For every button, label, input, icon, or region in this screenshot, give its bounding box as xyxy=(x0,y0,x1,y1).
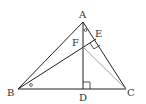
segment-AC xyxy=(83,22,126,89)
right-angle-mark-E xyxy=(90,43,100,49)
label-E: E xyxy=(95,28,102,39)
angle-mark-B xyxy=(30,84,33,87)
triangle-diagram: A E F B D C xyxy=(0,0,146,104)
label-C: C xyxy=(127,87,135,98)
segment-AB xyxy=(18,22,83,89)
segment-BE xyxy=(18,39,96,89)
segment-FC xyxy=(83,47,126,89)
label-B: B xyxy=(7,87,14,98)
geometry-figure: A E F B D C xyxy=(0,0,146,104)
label-A: A xyxy=(78,9,87,20)
right-angle-mark-D xyxy=(83,82,90,89)
label-D: D xyxy=(79,92,87,103)
angle-mark-A xyxy=(84,29,87,32)
label-F: F xyxy=(72,37,79,48)
